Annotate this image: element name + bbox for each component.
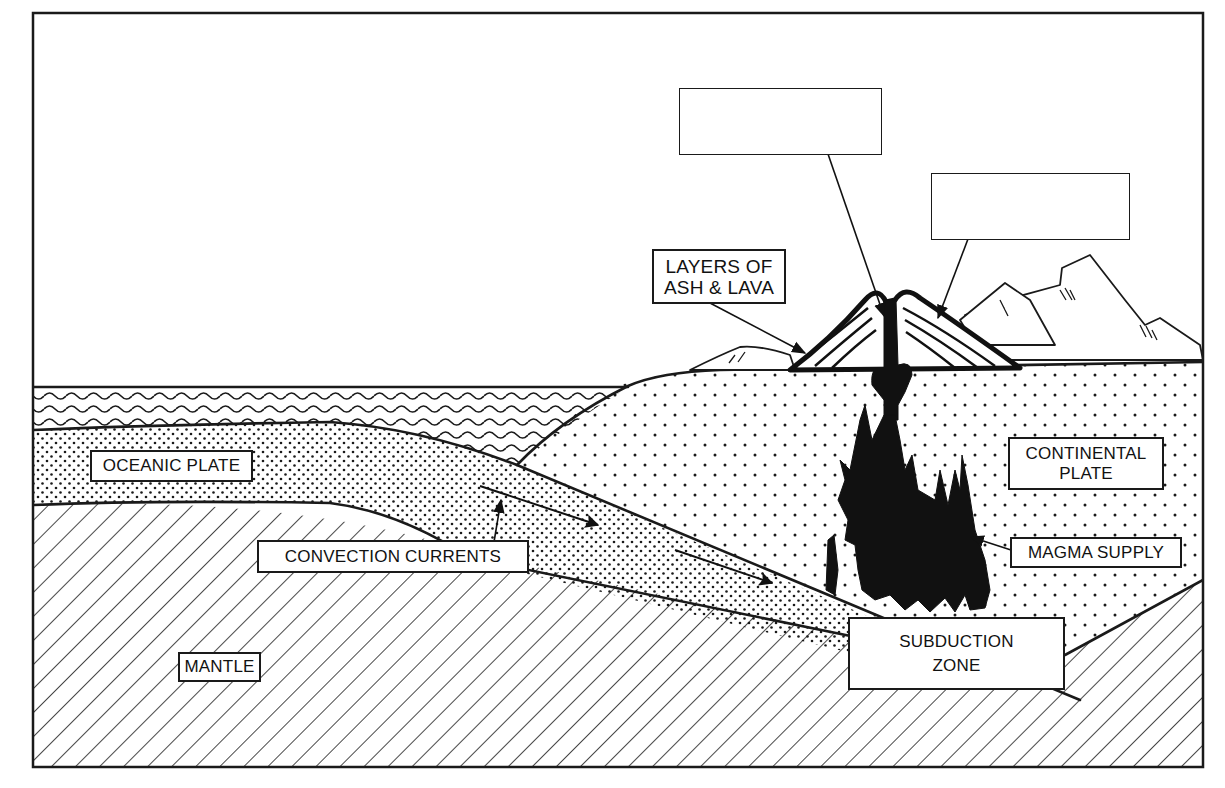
label-convection-text: CONVECTION CURRENTS <box>285 547 501 567</box>
label-continental-line2: PLATE <box>1059 464 1113 484</box>
label-magma-supply: MAGMA SUPPLY <box>1010 537 1182 568</box>
label-subduction-line1: SUBDUCTION <box>899 632 1013 652</box>
label-mantle-text: MANTLE <box>184 657 254 677</box>
label-oceanic-plate: OCEANIC PLATE <box>90 450 253 482</box>
label-continental-plate: CONTINENTAL PLATE <box>1008 437 1164 490</box>
blank-label-top[interactable] <box>679 88 882 155</box>
label-ash-lava-line1: LAYERS OF <box>665 256 772 277</box>
label-subduction-zone: SUBDUCTION ZONE <box>848 617 1065 690</box>
leader-blank-top <box>828 154 884 316</box>
label-ash-lava: LAYERS OF ASH & LAVA <box>652 249 786 304</box>
leader-blank-right <box>938 239 968 318</box>
label-magma-supply-text: MAGMA SUPPLY <box>1028 543 1164 563</box>
label-ash-lava-line2: ASH & LAVA <box>664 277 774 298</box>
label-oceanic-plate-text: OCEANIC PLATE <box>103 456 240 476</box>
leader-ash-lava <box>710 303 805 353</box>
blank-label-right[interactable] <box>931 173 1130 240</box>
label-subduction-line2: ZONE <box>932 656 980 676</box>
label-continental-line1: CONTINENTAL <box>1026 444 1147 464</box>
label-convection-currents: CONVECTION CURRENTS <box>257 540 529 573</box>
label-mantle: MANTLE <box>178 652 261 682</box>
